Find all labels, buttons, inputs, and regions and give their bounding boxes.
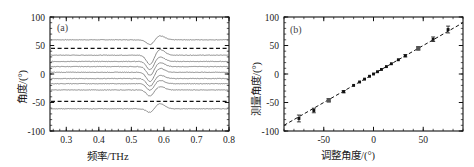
panel-b-y-tick: 50 <box>270 41 280 51</box>
panel-a-x-tick: 0.8 <box>223 135 235 145</box>
trace--61 <box>50 104 229 113</box>
panel-b-x-tick: 0 <box>371 135 376 145</box>
data-point <box>416 46 420 50</box>
data-point <box>372 73 375 76</box>
panel-a-x-tick: 0.5 <box>125 135 137 145</box>
panel-a-label: (a) <box>57 22 68 33</box>
data-point <box>432 38 435 41</box>
panel-b-datapoints <box>297 26 450 122</box>
panel-a-plot: 0.30.40.50.60.70.8-100-50050100 <box>0 0 237 167</box>
data-point <box>447 28 450 31</box>
data-point <box>390 62 393 65</box>
panel-a-y-tick: -100 <box>28 127 46 137</box>
data-point <box>397 58 400 61</box>
panel-a-x-axis-label: 频率/THz <box>87 148 129 163</box>
panel-a-x-tick: 0.3 <box>60 135 72 145</box>
panel-a-y-tick: 100 <box>31 13 46 23</box>
panel-a-x-tick: 0.4 <box>93 135 105 145</box>
panel-b-y-tick: 0 <box>274 70 279 80</box>
panel-b-x-tick: 50 <box>418 135 428 145</box>
trace-+22 <box>50 57 229 70</box>
trace-+13 <box>50 63 229 75</box>
panel-b-x-tick: -50 <box>317 135 330 145</box>
trace--17 <box>50 81 229 91</box>
data-point <box>380 68 383 71</box>
panel-a-frame <box>50 17 229 131</box>
data-point <box>385 65 388 68</box>
trace-+3 <box>50 68 229 81</box>
data-point <box>312 109 315 112</box>
panel-a-y-tick: 50 <box>36 41 46 51</box>
data-point <box>297 117 300 120</box>
panel-b-y-tick: -50 <box>266 98 279 108</box>
trace-+60 <box>50 36 229 45</box>
panel-b-y-tick: -100 <box>262 127 280 137</box>
panel-a-y-tick: -50 <box>32 98 45 108</box>
panel-a-x-tick: 0.7 <box>191 135 203 145</box>
figure-container: 0.30.40.50.60.70.8-100-50050100 (a) 角度/(… <box>0 0 474 167</box>
data-point <box>368 75 371 78</box>
panel-b-x-axis-label: 调整角度/(°) <box>321 147 375 162</box>
data-point <box>363 78 366 81</box>
panel-b-y-tick: 100 <box>265 13 280 23</box>
panel-b-y-axis-label: 测量角度/(°) <box>248 62 263 116</box>
panel-a: 0.30.40.50.60.70.8-100-50050100 (a) 角度/(… <box>0 0 237 167</box>
panel-a-y-tick: 0 <box>40 70 45 80</box>
panel-a-y-axis-label: 角度/(°) <box>14 70 29 104</box>
data-point <box>376 70 379 73</box>
trace-+33 <box>50 49 229 64</box>
panel-b-label: (b) <box>290 24 302 35</box>
data-point <box>352 84 355 87</box>
panel-a-x-tick: 0.6 <box>158 135 170 145</box>
data-point <box>342 90 345 93</box>
data-point <box>358 81 361 84</box>
trace--8 <box>50 75 229 86</box>
data-point <box>404 54 407 57</box>
panel-b: -50050-100-50050100 (b) 测量角度/(°) 调整角度/(°… <box>237 0 474 167</box>
trace--28 <box>50 87 229 96</box>
data-point <box>327 98 331 102</box>
panel-b-plot: -50050-100-50050100 <box>237 0 474 167</box>
